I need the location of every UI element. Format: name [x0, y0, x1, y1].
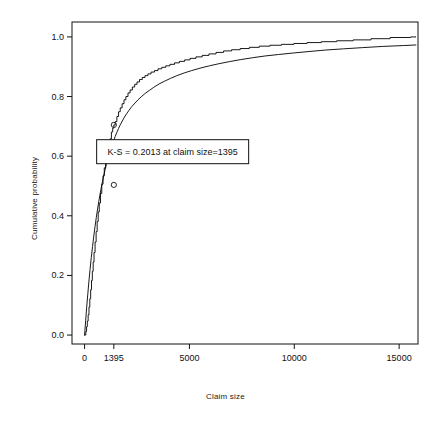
cdf-plot: 0.00.20.40.60.81.0 0139550001000015000 K… [0, 0, 445, 421]
y-tick-label: 0.8 [51, 92, 64, 102]
y-tick-label: 0.6 [51, 151, 64, 161]
chart-container: 0.00.20.40.60.81.0 0139550001000015000 K… [0, 0, 445, 421]
x-axis-label: Claim size [206, 392, 245, 401]
y-tick-label: 0.2 [51, 270, 64, 280]
ks-annotation-text: K-S = 0.2013 at claim size=1395 [108, 147, 238, 157]
y-tick-label: 0.0 [51, 330, 64, 340]
y-axis-label: Cumulative probability [30, 157, 39, 240]
y-axis-ticks [67, 37, 72, 335]
x-axis-ticks [85, 344, 400, 349]
x-tick-label: 1395 [104, 353, 124, 363]
ks-marker-point [111, 182, 116, 187]
x-tick-label: 0 [82, 353, 87, 363]
y-tick-label: 0.4 [51, 211, 64, 221]
ks-annotation: K-S = 0.2013 at claim size=1395 [97, 140, 249, 164]
x-axis-tick-labels: 0139550001000015000 [82, 353, 412, 363]
data-series-group [85, 37, 416, 335]
y-tick-label: 1.0 [51, 32, 64, 42]
series-path [85, 45, 416, 335]
x-tick-label: 15000 [387, 353, 412, 363]
x-tick-label: 5000 [179, 353, 199, 363]
x-tick-label: 10000 [282, 353, 307, 363]
plot-frame [72, 22, 418, 344]
series-path [85, 37, 416, 335]
y-axis-tick-labels: 0.00.20.40.60.81.0 [51, 32, 64, 340]
